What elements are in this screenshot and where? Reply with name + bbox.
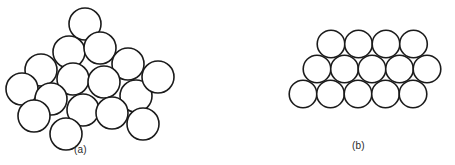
circle-b-9 — [289, 80, 317, 108]
panel-b-circle-packing-diagram — [0, 0, 455, 165]
circle-b-13 — [399, 80, 427, 108]
figure-container: (a) (b) — [0, 0, 455, 165]
circle-b-11 — [344, 80, 372, 108]
circle-b-0 — [317, 30, 345, 58]
panel-b-caption: (b) — [352, 140, 365, 151]
circle-b-6 — [358, 55, 386, 83]
circle-b-4 — [303, 55, 331, 83]
circle-b-7 — [386, 55, 414, 83]
circle-b-1 — [345, 30, 373, 58]
circle-b-12 — [372, 80, 400, 108]
circle-b-3 — [400, 30, 428, 58]
panel-b-ordered-packing: (b) — [228, 0, 455, 165]
circle-b-5 — [331, 55, 359, 83]
circle-b-2 — [372, 30, 400, 58]
circle-b-8 — [413, 55, 441, 83]
circle-b-10 — [317, 80, 345, 108]
